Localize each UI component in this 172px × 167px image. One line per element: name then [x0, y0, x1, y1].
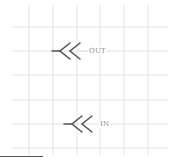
grid-lines — [12, 5, 168, 155]
bottom-bar — [0, 156, 43, 157]
out-label: OUT — [88, 47, 107, 55]
double-chevron-icon-out — [52, 43, 87, 59]
grid-canvas — [0, 0, 172, 167]
in-label: IN — [99, 120, 110, 128]
